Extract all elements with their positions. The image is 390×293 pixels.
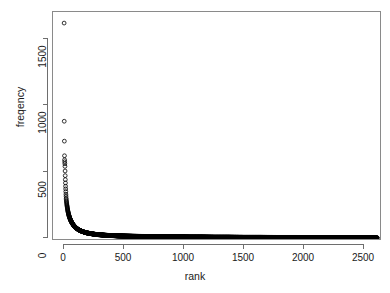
x-tick-2000 bbox=[303, 244, 304, 249]
x-tick-500 bbox=[123, 244, 124, 249]
x-axis-ticks: 05001000150020002500 bbox=[0, 0, 390, 293]
x-tick-1000 bbox=[183, 244, 184, 249]
x-tick-label-2500: 2500 bbox=[343, 252, 383, 263]
x-tick-label-1500: 1500 bbox=[223, 252, 263, 263]
x-axis-title: rank bbox=[0, 270, 390, 282]
x-tick-label-0: 0 bbox=[43, 252, 83, 263]
x-tick-label-2000: 2000 bbox=[283, 252, 323, 263]
x-tick-1500 bbox=[243, 244, 244, 249]
x-tick-0 bbox=[63, 244, 64, 249]
chart-screenshot: 150010005000 05001000150020002500 freqen… bbox=[0, 0, 390, 293]
x-tick-2500 bbox=[363, 244, 364, 249]
x-tick-label-500: 500 bbox=[103, 252, 143, 263]
y-axis-title: freqency bbox=[14, 87, 26, 127]
x-tick-label-1000: 1000 bbox=[163, 252, 203, 263]
